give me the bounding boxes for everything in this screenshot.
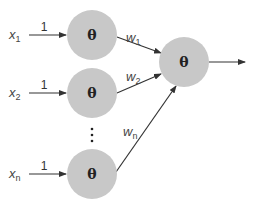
hidden-node-1-label: θ	[87, 27, 96, 43]
input-weight-n: 1	[41, 159, 48, 173]
weight-label-1: w1	[126, 30, 140, 47]
input-weight-2: 1	[41, 78, 48, 92]
ellipsis-dots	[91, 128, 94, 143]
hidden-node-n-label: θ	[87, 166, 96, 182]
input-label-2: x2	[8, 85, 21, 102]
weight-label-n: wn	[123, 124, 137, 141]
hidden-node-2-label: θ	[87, 85, 96, 101]
input-label-n: xn	[8, 166, 21, 183]
output-node-label: θ	[179, 54, 188, 70]
neural-network-diagram: θ θ θ θ x1 x2 xn 1 1 1 w1 w2 wn	[0, 0, 259, 206]
input-label-1: x1	[8, 27, 21, 44]
input-weight-1: 1	[41, 20, 48, 34]
weight-label-2: w2	[126, 69, 140, 86]
